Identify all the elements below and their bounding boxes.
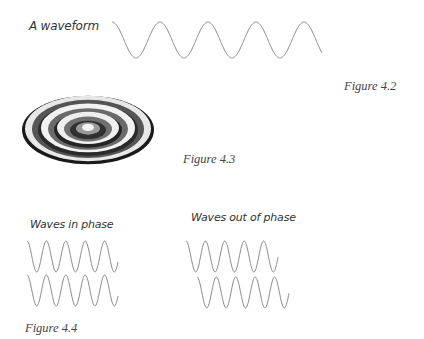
sine-wave [27, 275, 118, 306]
sine-wave [27, 241, 118, 272]
sine-wave [186, 241, 278, 272]
sine-wave [197, 277, 289, 308]
waves-out-of-phase [186, 241, 289, 308]
waves-in-phase [27, 241, 118, 306]
diagram-canvas [0, 0, 424, 339]
sine-wave [112, 22, 322, 58]
ripple-figure-4-3 [22, 96, 154, 165]
waveform-figure-4-2 [112, 22, 322, 58]
